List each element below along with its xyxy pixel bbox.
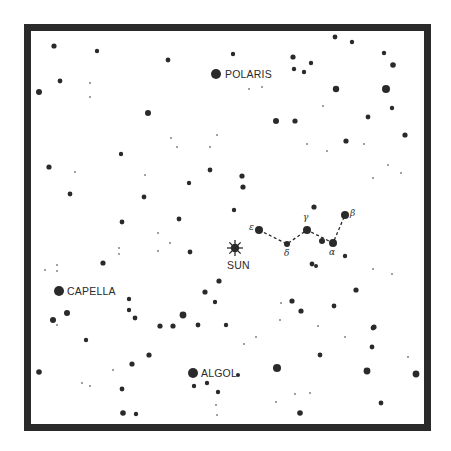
faint-star	[81, 382, 83, 384]
star	[166, 58, 171, 63]
star	[366, 115, 371, 120]
star	[58, 79, 63, 84]
star	[370, 345, 375, 350]
star	[146, 352, 151, 357]
delta-label: δ	[284, 249, 289, 258]
star	[46, 164, 51, 169]
faint-star	[144, 174, 146, 176]
faint-star	[118, 247, 120, 249]
star	[310, 262, 315, 267]
faint-star	[170, 137, 172, 139]
star	[51, 43, 56, 48]
star	[298, 308, 303, 313]
star	[273, 364, 281, 372]
faint-star	[56, 264, 58, 266]
star	[170, 323, 175, 328]
star	[177, 217, 182, 222]
star	[187, 181, 191, 185]
star	[36, 89, 42, 95]
alpha-label: α	[329, 248, 335, 257]
faint-star	[387, 164, 389, 166]
star	[224, 323, 228, 327]
star	[205, 381, 209, 385]
sun-core	[231, 244, 239, 252]
star	[350, 40, 354, 44]
star	[379, 401, 384, 406]
star	[202, 289, 207, 294]
star	[95, 49, 99, 53]
star	[332, 304, 337, 309]
star	[302, 70, 306, 74]
star	[343, 138, 348, 143]
faint-star	[89, 385, 91, 387]
capella-label: CAPELLA	[67, 286, 116, 297]
constellation-star	[329, 239, 337, 247]
faint-star	[400, 172, 402, 174]
star	[120, 387, 125, 392]
capella-star	[54, 286, 64, 296]
faint-star	[248, 88, 250, 90]
star	[232, 208, 236, 212]
star	[145, 110, 151, 116]
faint-star	[261, 86, 263, 88]
star	[311, 204, 316, 209]
star	[333, 35, 338, 40]
star	[100, 260, 105, 265]
epsilon-label: ε	[249, 223, 254, 232]
star	[413, 371, 420, 378]
named-stars	[54, 69, 221, 378]
faint-star	[372, 177, 374, 179]
faint-star	[44, 269, 46, 271]
polaris-star	[211, 69, 221, 79]
star	[196, 323, 201, 328]
faint-star	[344, 336, 346, 338]
star	[318, 353, 323, 358]
faint-star	[372, 268, 374, 270]
star	[273, 118, 279, 124]
star	[216, 278, 221, 283]
star	[213, 300, 217, 304]
constellation-star	[284, 241, 290, 247]
star	[142, 195, 147, 200]
beta-label: β	[350, 209, 355, 218]
faint-star	[363, 143, 365, 145]
star	[134, 412, 138, 416]
star	[84, 338, 88, 342]
faint-star	[56, 324, 58, 326]
constellation-star	[303, 226, 311, 234]
star	[119, 152, 123, 156]
stars	[36, 35, 419, 417]
star	[239, 173, 244, 178]
faint-star	[407, 356, 409, 358]
faint-star	[215, 404, 217, 406]
star	[50, 317, 56, 323]
star	[64, 310, 70, 316]
constellation-star	[319, 238, 325, 244]
faint-star	[275, 401, 277, 403]
faint-star	[56, 270, 58, 272]
faint-stars	[44, 82, 409, 416]
star	[353, 287, 358, 292]
polaris-label: POLARIS	[225, 69, 272, 80]
star	[390, 62, 396, 68]
star	[364, 368, 371, 375]
faint-star	[317, 325, 319, 327]
faint-star	[322, 105, 324, 107]
sun-label: SUN	[227, 260, 250, 271]
star	[382, 51, 386, 55]
faint-star	[209, 146, 211, 148]
faint-star	[255, 336, 257, 338]
faint-star	[326, 150, 328, 152]
star	[192, 384, 196, 388]
faint-star	[294, 393, 296, 395]
star	[157, 323, 162, 328]
faint-star	[309, 392, 311, 394]
star	[240, 184, 245, 189]
star	[382, 85, 390, 93]
faint-star	[176, 146, 178, 148]
star	[208, 168, 213, 173]
star	[309, 61, 313, 65]
algol-star	[188, 368, 198, 378]
star	[231, 52, 235, 56]
faint-star	[112, 369, 114, 371]
